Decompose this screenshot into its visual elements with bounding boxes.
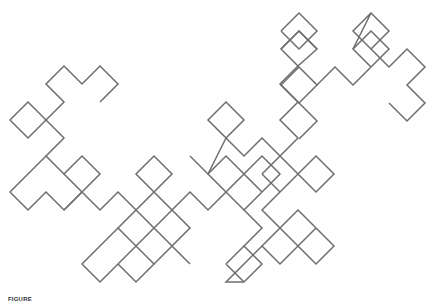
curve-segment [281,31,317,49]
curve-segment [262,156,334,264]
curve-segment [190,156,208,174]
curve-segment [317,31,389,85]
figure-caption: FIGUREDragon curve fractal (caption crop… [8,296,146,302]
curve-segment [172,210,190,264]
dragon-curve-figure [0,0,436,290]
curve-segment [299,103,317,139]
curve-segment [280,66,298,156]
curve-segment [172,156,280,210]
curve-segment [154,228,172,264]
curve-segment [64,192,82,210]
curve-segment [244,210,262,246]
curve-segment [82,228,154,282]
figure-caption-label: FIGURE [8,296,32,302]
curve-segment [226,246,262,282]
curve-segment [281,31,317,103]
curve-segment [298,156,334,192]
curve-segment [10,156,154,246]
curve-segment [136,156,172,228]
curve-segment [10,66,118,174]
